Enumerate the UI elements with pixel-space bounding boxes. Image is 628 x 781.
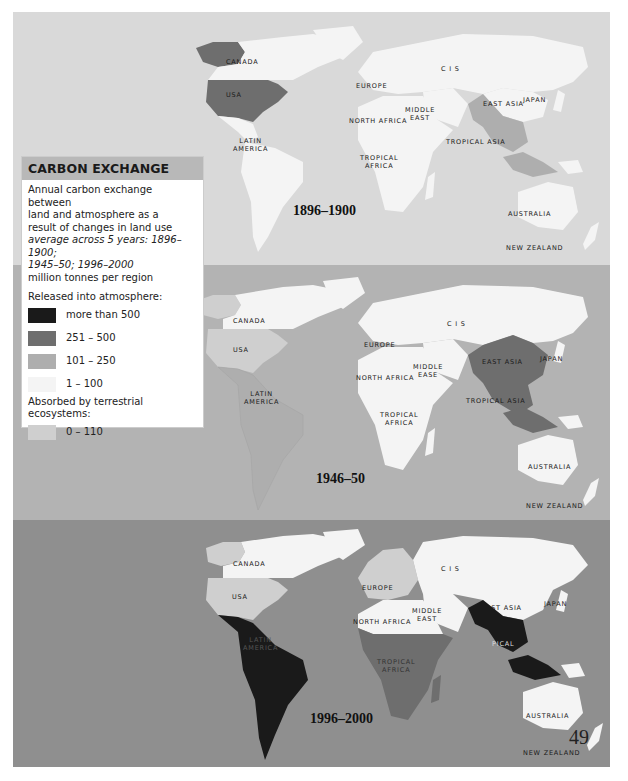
label-north-africa: NORTH AFRICA [349,117,407,125]
swatch-101-250 [28,354,56,369]
label-east-asia: EAST ASIA [482,358,523,366]
year-label: 1896–1900 [293,203,356,219]
label-new-zealand: NEW ZEALAND [506,244,563,252]
label-tropical-africa: TROPICALAFRICA [377,658,415,674]
label-tropical-africa: TROPICALAFRICA [380,411,418,427]
swatch-absorbed [28,425,56,440]
label-middle-east: MIDDLEEAST [405,106,435,122]
label-usa: USA [233,346,249,354]
label-usa: USA [232,593,248,601]
map-legend: CARBON EXCHANGE Annual carbon exchange b… [22,157,203,427]
legend-description: Annual carbon exchange between land and … [28,184,197,284]
label-east-asia: EAST ASIA [481,604,522,612]
world-map-1996-2000 [13,520,610,767]
legend-released-heading: Released into atmosphere: [28,291,197,304]
label-japan: JAPAN [540,355,563,363]
swatch-251-500 [28,331,56,346]
label-tropical-asia: TROPICAL ASIA [466,397,525,405]
label-australia: AUSTRALIA [508,210,551,218]
label-canada: CANADA [233,560,265,568]
map-panel-1996-2000: CANADA USA LATINAMERICA EUROPE C I S MID… [13,520,610,767]
label-japan: JAPAN [544,600,567,608]
label-australia: AUSTRALIA [526,712,569,720]
legend-item-101-250: 101 – 250 [28,350,197,373]
label-north-africa: NORTH AFRICA [356,374,414,382]
label-tropical-africa: TROPICALAFRICA [360,154,398,170]
label-australia: AUSTRALIA [528,463,571,471]
label-new-zealand: NEW ZEALAND [526,502,583,510]
label-cis: C I S [441,565,460,573]
label-north-africa: NORTH AFRICA [353,618,411,626]
label-japan: JAPAN [523,96,546,104]
year-label: 1996–2000 [310,711,373,727]
legend-item-absorbed: 0 – 110 [28,421,197,444]
label-east-asia: EAST ASIA [483,100,524,108]
label-usa: USA [226,91,242,99]
legend-title: CARBON EXCHANGE [22,157,203,180]
swatch-gt500 [28,308,56,323]
swatch-1-100 [28,377,56,392]
label-tropical-asia: PICAL [492,640,514,648]
label-middle-east: MIDDLEEAST [412,607,442,623]
page-number: 49 [569,726,589,749]
label-cis: C I S [447,320,466,328]
legend-item-gt500: more than 500 [28,304,197,327]
label-latin-america: LATINAMERICA [233,137,268,153]
legend-item-1-100: 1 – 100 [28,373,197,396]
label-latin-america: LATINAMERICA [243,636,278,652]
label-europe: EUROPE [364,341,395,349]
label-canada: CANADA [226,58,258,66]
label-middle-east: MIDDLEEASE [413,363,443,379]
label-new-zealand: NEW ZEALAND [523,749,580,757]
label-tropical-asia: TROPICAL ASIA [446,138,505,146]
label-europe: EUROPE [362,584,393,592]
legend-unit: million tonnes per region [28,272,197,285]
label-europe: EUROPE [356,82,387,90]
legend-absorbed-heading: Absorbed by terrestrial ecosystems: [28,396,197,421]
label-latin-america: LATINAMERICA [244,390,279,406]
legend-item-251-500: 251 – 500 [28,327,197,350]
label-canada: CANADA [233,317,265,325]
year-label: 1946–50 [316,471,365,487]
label-cis: C I S [441,65,460,73]
